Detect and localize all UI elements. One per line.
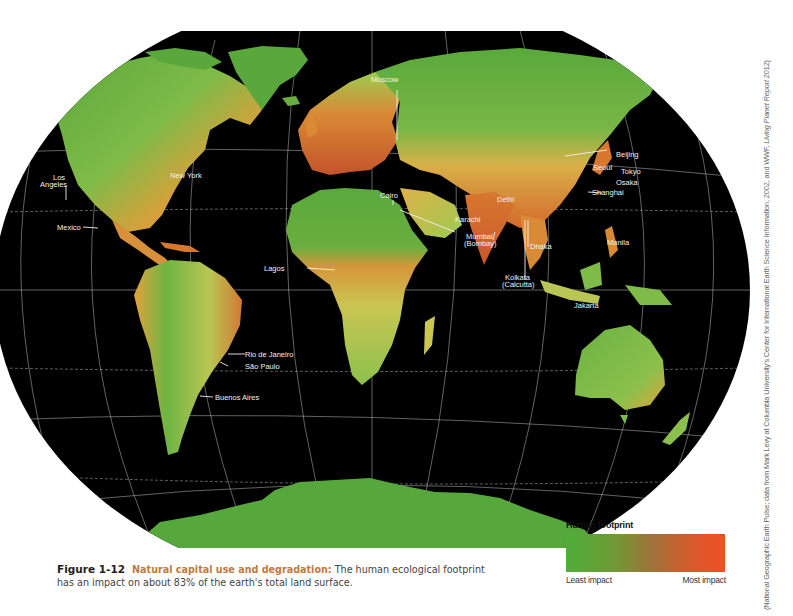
city-beijing: Beijing — [616, 150, 639, 159]
city-sao-paulo: São Paulo — [245, 362, 280, 371]
source-credit: (National Geographic Earth Pulse; data f… — [762, 50, 771, 610]
city-mumbai-line2: (Bombay) — [464, 239, 497, 248]
city-delhi: Delhi — [497, 195, 514, 204]
city-tokyo: Tokyo — [621, 167, 641, 176]
credit-report-title: Living Planet Report — [762, 80, 771, 144]
city-seoul: Seoul — [593, 163, 613, 172]
city-mexico: Mexico — [57, 223, 81, 232]
figure-caption: Figure 1-12 Natural capital use and degr… — [57, 563, 497, 589]
city-rio-de-janeiro: Rio de Janeiro — [245, 350, 293, 359]
city-jakarta: Jakarta — [574, 301, 599, 310]
figure-title: Natural capital use and degradation: — [132, 564, 332, 575]
city-cairo: Cairo — [380, 191, 398, 200]
city-manila: Manila — [607, 238, 630, 247]
city-karachi: Karachi — [455, 215, 481, 224]
legend: Human footprint Least impact Most impact — [566, 520, 728, 585]
city-lagos: Lagos — [264, 264, 285, 273]
city-shanghai: Shanghai — [592, 188, 624, 197]
legend-gradient-bar — [566, 534, 725, 572]
legend-high-label: Most impact — [682, 575, 726, 585]
city-osaka: Osaka — [616, 178, 639, 187]
city-moscow: Moscow — [371, 75, 399, 84]
credit-text: (National Geographic Earth Pulse; data f… — [762, 144, 771, 610]
legend-scale-labels: Least impact Most impact — [566, 575, 726, 585]
figure-number: Figure 1-12 — [57, 563, 125, 575]
city-buenos-aires: Buenos Aires — [215, 393, 259, 402]
city-dhaka: Dhaka — [530, 242, 553, 251]
legend-low-label: Least impact — [566, 575, 612, 585]
credit-year: 2012) — [762, 60, 771, 80]
city-new-york: New York — [170, 171, 202, 180]
city-kolkata-line2: (Calcutta) — [502, 280, 535, 289]
legend-title: Human footprint — [566, 520, 728, 530]
city-los-angeles-line2: Angeles — [40, 180, 67, 189]
